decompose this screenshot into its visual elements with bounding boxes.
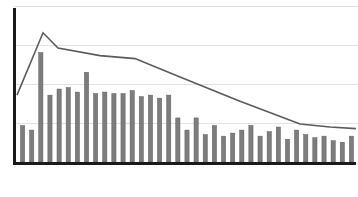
- bar: [157, 98, 161, 162]
- pareto-chart: [0, 0, 358, 197]
- bar: [94, 94, 98, 162]
- bar: [75, 92, 79, 162]
- bar-group: [20, 53, 353, 162]
- bar: [304, 135, 308, 162]
- bar: [240, 130, 244, 162]
- bar: [176, 118, 180, 162]
- bar: [30, 130, 34, 162]
- bar: [20, 126, 24, 162]
- bar: [331, 141, 335, 162]
- bar: [313, 138, 317, 162]
- bar: [130, 91, 134, 162]
- bar: [112, 94, 116, 162]
- bar: [103, 92, 107, 162]
- bar: [185, 130, 189, 162]
- bar: [249, 126, 253, 162]
- bar: [295, 130, 299, 162]
- bar: [285, 139, 289, 162]
- bar: [203, 135, 207, 162]
- gridline-group: [14, 0, 358, 123]
- bar: [231, 133, 235, 162]
- bar: [340, 142, 344, 162]
- chart-canvas: [0, 0, 358, 197]
- bar: [212, 126, 216, 162]
- bar: [39, 53, 43, 162]
- bar: [48, 95, 52, 162]
- bar: [194, 118, 198, 162]
- bar: [258, 136, 262, 162]
- bar: [349, 136, 353, 162]
- bar: [148, 95, 152, 162]
- bar: [66, 88, 70, 162]
- bar: [57, 89, 61, 162]
- bar: [267, 132, 271, 162]
- bar: [221, 136, 225, 162]
- bar: [276, 127, 280, 162]
- bar: [121, 94, 125, 162]
- bar: [139, 97, 143, 162]
- bar: [84, 72, 88, 162]
- bar: [167, 95, 171, 162]
- bar: [322, 136, 326, 162]
